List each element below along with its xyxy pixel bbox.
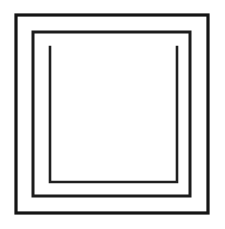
inner-open-top-square-shape	[50, 47, 177, 182]
middle-square-shape	[33, 32, 190, 196]
figure-canvas: Nested squares line drawing Three concen…	[0, 0, 225, 229]
nested-squares-drawing	[0, 0, 225, 229]
